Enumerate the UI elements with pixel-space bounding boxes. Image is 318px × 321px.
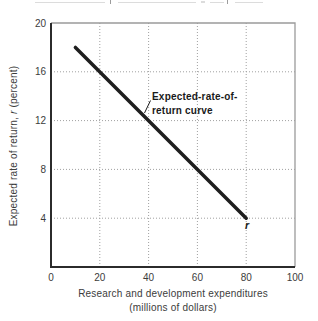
curve-annotation-line1: Expected-rate-of-: [152, 90, 238, 104]
x-axis-title: Research and development expenditures (m…: [41, 287, 305, 315]
curve-annotation-line2: return curve: [152, 104, 238, 118]
x-tick-label: 20: [94, 272, 106, 283]
x-tick-label: 40: [143, 272, 155, 283]
x-tick-label: 0: [48, 272, 54, 283]
y-axis-title-suffix: (percent): [8, 66, 19, 111]
y-tick-label: 12: [35, 115, 47, 126]
y-axis-title: Expected rate of return, r (percent): [8, 66, 19, 227]
y-tick-label: 16: [35, 66, 47, 77]
curve-end-label: r: [245, 219, 249, 231]
y-axis-title-variable: r: [8, 110, 19, 114]
x-axis-title-line2: (millions of dollars): [41, 301, 305, 315]
curve-annotation-label: Expected-rate-of- return curve: [152, 90, 238, 118]
y-axis-title-prefix: Expected rate of return,: [8, 114, 19, 226]
x-tick-label: 60: [192, 272, 204, 283]
y-tick-label: 4: [40, 213, 46, 224]
rd-expected-return-figure: 48121620020406080100 Expected-rate-of- r…: [0, 0, 318, 321]
expected-rate-of-return-curve: [75, 47, 246, 218]
x-tick-label: 100: [287, 272, 304, 283]
expected-rate-of-return-chart: 48121620020406080100: [0, 0, 318, 321]
y-tick-label: 8: [40, 164, 46, 175]
annotation-leader-line: [145, 101, 151, 114]
x-axis-title-line1: Research and development expenditures: [41, 287, 305, 301]
x-tick-label: 80: [241, 272, 253, 283]
y-tick-label: 20: [35, 18, 47, 29]
